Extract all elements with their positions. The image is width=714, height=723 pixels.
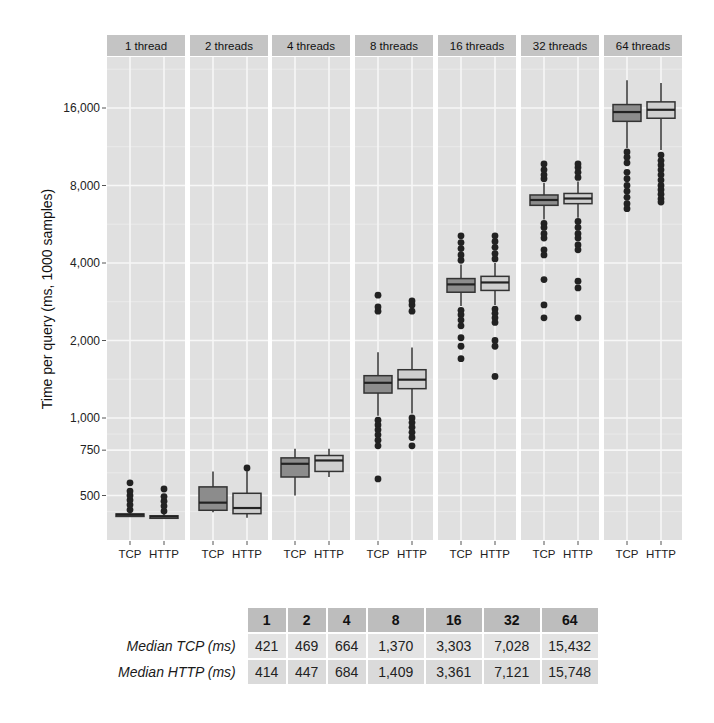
- y-axis-title: Time per query (ms, 1000 samples): [39, 189, 55, 409]
- outlier-point: [541, 252, 548, 259]
- y-tick-label: 2,000: [70, 334, 100, 348]
- outlier-point: [409, 308, 416, 315]
- facet-panel: 32 threadsTCPHTTP: [521, 35, 599, 560]
- table-cell: 1,370: [368, 634, 424, 658]
- y-axis-ticks: 5007501,0002,0004,0008,00016,000: [63, 101, 106, 503]
- facet-panel: 1 threadTCPHTTP: [107, 35, 185, 560]
- table-cell: 7,028: [484, 634, 540, 658]
- outlier-point: [161, 493, 168, 500]
- facet-panel: 8 threadsTCPHTTP: [355, 35, 433, 560]
- table-row: Median TCP (ms)4214696641,3703,3037,0281…: [112, 634, 598, 658]
- outlier-point: [375, 292, 382, 299]
- box-body: [199, 487, 227, 510]
- outlier-point: [492, 373, 499, 380]
- outlier-point: [575, 224, 582, 231]
- facet-panel: 4 threadsTCPHTTP: [272, 35, 350, 560]
- x-tick-label: TCP: [533, 548, 556, 560]
- x-tick-label: HTTP: [397, 548, 427, 560]
- outlier-point: [458, 322, 465, 329]
- box-body: [315, 456, 343, 472]
- outlier-point: [624, 205, 631, 212]
- outlier-point: [492, 232, 499, 239]
- x-tick-label: TCP: [284, 548, 307, 560]
- facet-label: 16 threads: [450, 40, 505, 52]
- y-tick-label: 4,000: [70, 256, 100, 270]
- table-cell: 7,121: [484, 660, 540, 684]
- table-row: Median HTTP (ms)4144476841,4093,3617,121…: [112, 660, 598, 684]
- outlier-point: [375, 442, 382, 449]
- table-column-header: 1: [248, 608, 286, 632]
- table-column-header: 16: [426, 608, 482, 632]
- panel-background: [190, 57, 268, 540]
- table-column-header: 32: [484, 608, 540, 632]
- table-cell: 15,748: [542, 660, 598, 684]
- x-tick-label: HTTP: [314, 548, 344, 560]
- outlier-point: [541, 224, 548, 231]
- outlier-point: [492, 250, 499, 257]
- facet-label: 4 threads: [287, 40, 335, 52]
- outlier-point: [458, 355, 465, 362]
- x-tick-label: TCP: [616, 548, 639, 560]
- outlier-point: [409, 442, 416, 449]
- table-cell: 684: [328, 660, 366, 684]
- box-body: [281, 458, 309, 477]
- outlier-point: [658, 199, 665, 206]
- x-tick-label: TCP: [450, 548, 473, 560]
- x-tick-label: HTTP: [480, 548, 510, 560]
- outlier-point: [409, 298, 416, 305]
- outlier-point: [541, 314, 548, 321]
- outlier-point: [624, 175, 631, 182]
- table-cell: 3,303: [426, 634, 482, 658]
- panel-background: [355, 57, 433, 540]
- x-tick-label: HTTP: [232, 548, 262, 560]
- outlier-point: [127, 488, 134, 495]
- table-cell: 447: [288, 660, 326, 684]
- x-tick-label: HTTP: [646, 548, 676, 560]
- outlier-point: [492, 244, 499, 251]
- table-cell: 664: [328, 634, 366, 658]
- outlier-point: [458, 334, 465, 341]
- facet-panel: 16 threadsTCPHTTP: [438, 35, 516, 560]
- outlier-point: [458, 343, 465, 350]
- y-tick-label: 1,000: [70, 411, 100, 425]
- outlier-point: [541, 161, 548, 168]
- outlier-point: [375, 304, 382, 311]
- facet-label: 8 threads: [370, 40, 418, 52]
- outlier-point: [541, 301, 548, 308]
- table-cell: 15,432: [542, 634, 598, 658]
- panel-background: [107, 57, 185, 540]
- outlier-point: [492, 343, 499, 350]
- table-column-header: 2: [288, 608, 326, 632]
- table-column-header: 4: [328, 608, 366, 632]
- outlier-point: [244, 464, 251, 471]
- outlier-point: [161, 486, 168, 493]
- y-tick-label: 8,000: [70, 179, 100, 193]
- outlier-point: [541, 276, 548, 283]
- table-cell: 469: [288, 634, 326, 658]
- facet-label: 32 threads: [533, 40, 588, 52]
- table-cell: 421: [248, 634, 286, 658]
- outlier-point: [624, 159, 631, 166]
- y-tick-label: 500: [80, 489, 100, 503]
- outlier-point: [458, 245, 465, 252]
- table-row-label: Median HTTP (ms): [112, 660, 246, 684]
- y-tick-label: 16,000: [63, 101, 100, 115]
- outlier-point: [541, 166, 548, 173]
- outlier-point: [575, 235, 582, 242]
- table-row-label: Median TCP (ms): [112, 634, 246, 658]
- x-tick-label: HTTP: [149, 548, 179, 560]
- facet-panel: 64 threadsTCPHTTP: [604, 35, 682, 560]
- outlier-point: [492, 319, 499, 326]
- facet-label: 1 thread: [125, 40, 167, 52]
- outlier-point: [458, 252, 465, 259]
- table-header-row: 1248163264: [112, 608, 598, 632]
- outlier-point: [409, 434, 416, 441]
- box-body: [233, 493, 261, 513]
- table-column-header: 64: [542, 608, 598, 632]
- outlier-point: [624, 169, 631, 176]
- facet-panels: 1 threadTCPHTTP2 threadsTCPHTTP4 threads…: [107, 35, 682, 560]
- table-cell: 3,361: [426, 660, 482, 684]
- facet-label: 64 threads: [616, 40, 671, 52]
- x-tick-label: TCP: [119, 548, 142, 560]
- outlier-point: [575, 246, 582, 253]
